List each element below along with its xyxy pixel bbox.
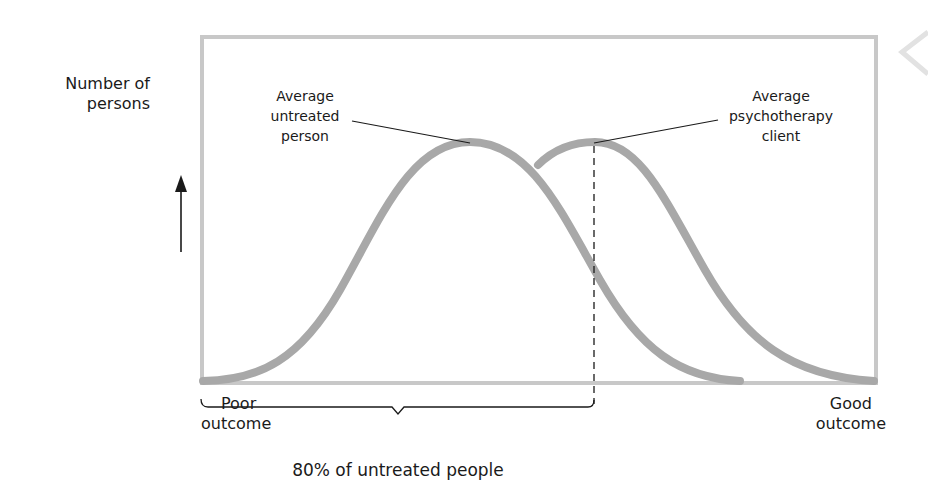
poor-outcome-line2: outcome	[201, 414, 301, 434]
page-edge-artifact	[896, 30, 928, 80]
therapy-leader-line	[594, 120, 718, 143]
therapy-annotation-line1: Average	[716, 86, 846, 106]
untreated-distribution-curve	[203, 142, 740, 381]
good-outcome-line1: Good	[790, 394, 886, 414]
y-axis-label-line2: persons	[40, 94, 150, 114]
therapy-annotation: Average psychotherapy client	[716, 86, 846, 146]
up-arrow-icon	[175, 175, 187, 192]
brace-label: 80% of untreated people	[268, 460, 528, 480]
untreated-annotation-line2: untreated	[255, 106, 355, 126]
untreated-annotation-line3: person	[255, 126, 355, 146]
therapy-annotation-line3: client	[716, 126, 846, 146]
untreated-annotation-line1: Average	[255, 86, 355, 106]
untreated-leader-line	[352, 121, 470, 143]
good-outcome-label: Good outcome	[790, 394, 886, 434]
good-outcome-line2: outcome	[790, 414, 886, 434]
y-axis-label: Number of persons	[40, 74, 150, 114]
untreated-annotation: Average untreated person	[255, 86, 355, 146]
therapy-annotation-line2: psychotherapy	[716, 106, 846, 126]
y-axis-label-line1: Number of	[40, 74, 150, 94]
poor-outcome-label: Poor outcome	[201, 394, 301, 434]
poor-outcome-line1: Poor	[201, 394, 301, 414]
